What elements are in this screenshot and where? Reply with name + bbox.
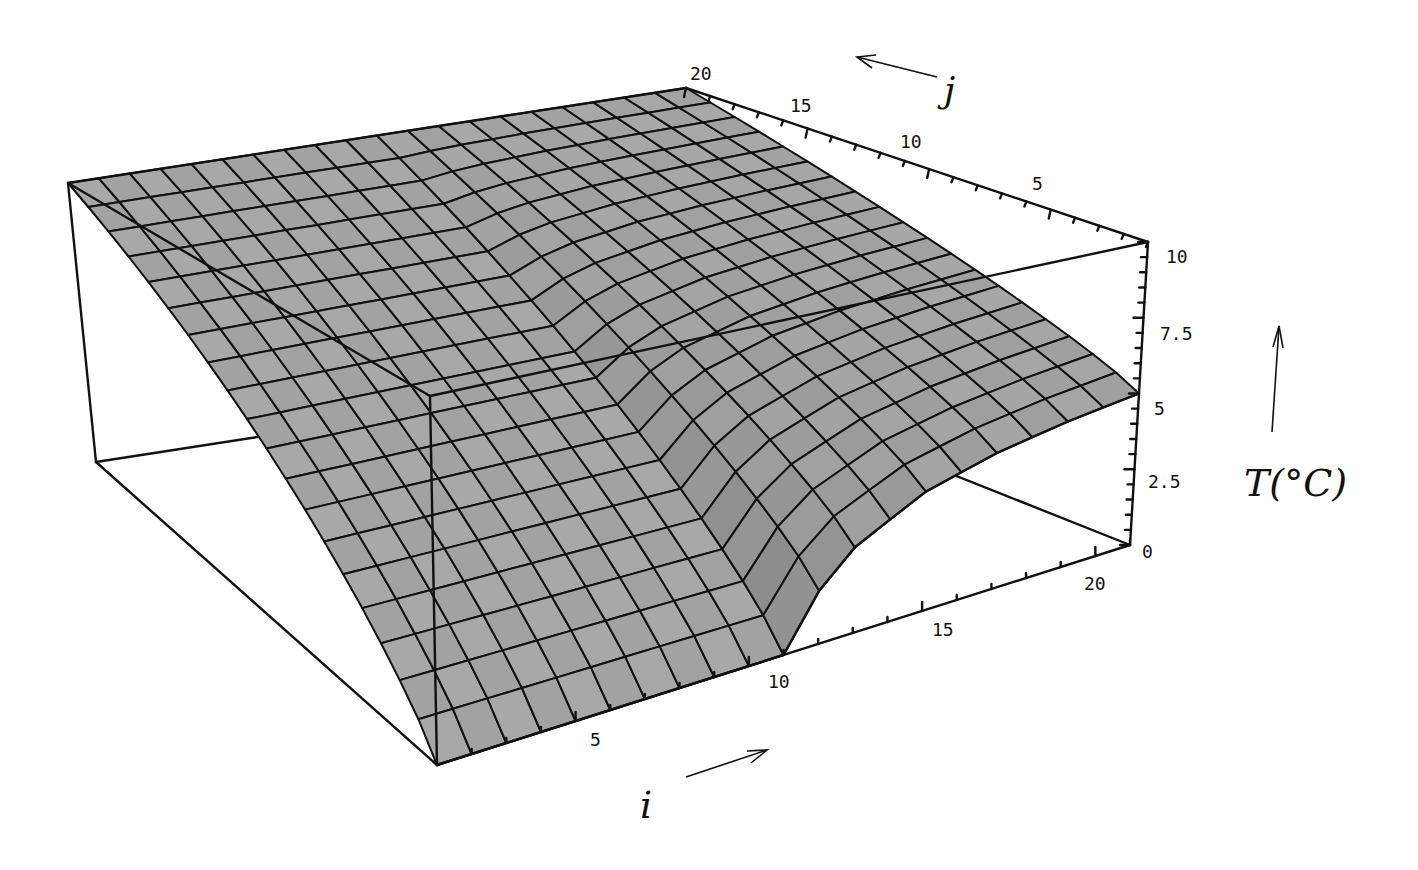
j-arrow-icon [857,57,937,77]
i-tick-10: 10 [768,671,790,692]
i-arrow-icon [686,750,767,777]
t-axis-label: T(°C) [1244,326,1347,505]
t-arrow-icon [1272,326,1279,432]
svg-text:T(°C): T(°C) [1244,461,1347,505]
t-tick-7.5: 7.5 [1160,323,1193,344]
i-tick-5: 5 [590,729,601,750]
t-tick-0: 0 [1142,541,1153,562]
j-tick-20: 20 [690,63,712,84]
t-tick-10: 10 [1166,246,1188,267]
t-tick-2.5: 2.5 [1148,471,1181,492]
temperature-surface [68,88,1139,765]
surface-plot: 20 15 10 5 10 7.5 5 2.5 0 5 10 15 20 j i… [0,0,1418,870]
svg-text:j: j [937,69,955,110]
j-tick-10: 10 [900,131,922,152]
i-tick-15: 15 [932,619,954,640]
t-tick-5: 5 [1154,398,1165,419]
j-tick-5: 5 [1032,173,1043,194]
svg-text:i: i [640,783,652,827]
i-axis-label: i [640,750,767,827]
i-tick-20: 20 [1084,573,1106,594]
j-tick-15: 15 [790,95,812,116]
j-axis-label: j [857,55,955,110]
